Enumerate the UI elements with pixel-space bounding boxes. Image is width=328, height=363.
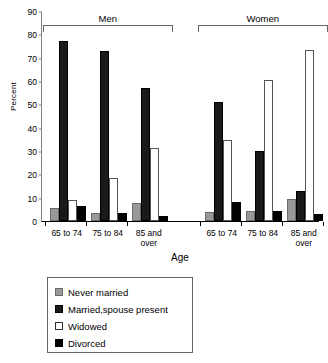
x-axis-tick-label-line1: 85 and	[282, 228, 326, 238]
y-axis-tick-mark	[39, 105, 42, 106]
bar	[314, 214, 323, 221]
bar	[296, 191, 305, 221]
x-axis-tick-label: 85 andover	[127, 228, 171, 248]
bar	[305, 50, 314, 221]
bar	[264, 80, 273, 221]
y-axis-tick-label: 10	[0, 194, 42, 204]
group-bracket: Women	[198, 25, 328, 32]
x-axis-tick-label-line1: 75 to 84	[241, 228, 285, 238]
bar	[205, 212, 214, 221]
bars-layer	[42, 12, 319, 221]
bar	[287, 199, 296, 221]
bar	[273, 211, 282, 221]
x-axis-tick-mark	[241, 222, 242, 226]
x-axis-tick-mark	[200, 222, 201, 226]
bar-chart-figure: Percent 0102030405060708090 Age Never ma…	[0, 0, 328, 363]
bar	[68, 200, 77, 221]
x-axis-tick-label-line2: over	[127, 238, 171, 248]
legend-item: Divorced	[55, 335, 192, 351]
group-bracket-label: Men	[44, 13, 172, 24]
y-axis-tick-label: 70	[0, 54, 42, 64]
bar	[223, 140, 232, 221]
y-axis-tick-label: 40	[0, 124, 42, 134]
y-axis-tick-mark	[39, 128, 42, 129]
group-bracket: Men	[43, 25, 173, 32]
bar	[91, 213, 100, 221]
bar	[246, 211, 255, 221]
legend-swatch-icon	[55, 288, 63, 296]
legend-item-label: Never married	[68, 287, 128, 298]
bar	[141, 88, 150, 221]
x-axis-tick-mark	[86, 222, 87, 226]
bar	[50, 208, 59, 221]
bar	[109, 178, 118, 221]
bar	[232, 202, 241, 221]
bar	[150, 148, 159, 221]
legend-swatch-icon	[55, 339, 63, 347]
y-axis-tick-label: 60	[0, 77, 42, 87]
bar	[77, 206, 86, 221]
y-axis-tick-mark	[39, 58, 42, 59]
bar	[214, 102, 223, 221]
y-axis-tick-mark	[39, 82, 42, 83]
x-axis-tick-label: 65 to 74	[45, 228, 89, 238]
y-axis-tick-mark	[39, 12, 42, 13]
legend-item-label: Divorced	[68, 338, 106, 349]
x-axis-label: Age	[41, 252, 319, 263]
y-axis-tick-mark	[39, 198, 42, 199]
y-axis-tick-label: 50	[0, 100, 42, 110]
x-axis-tick-label-line2: over	[282, 238, 326, 248]
legend-item: Widowed	[55, 318, 192, 334]
y-axis-tick-label: 30	[0, 147, 42, 157]
y-axis-tick-mark	[39, 152, 42, 153]
y-axis-tick-label: 20	[0, 170, 42, 180]
x-axis-tick-mark	[282, 222, 283, 226]
y-axis-tick-label: 90	[0, 7, 42, 17]
x-axis-tick-label: 75 to 84	[86, 228, 130, 238]
y-axis-tick-label: 80	[0, 30, 42, 40]
y-axis-tick-label: 0	[0, 217, 42, 227]
legend-item-label: Widowed	[68, 321, 107, 332]
bar	[159, 216, 168, 221]
group-bracket-label: Women	[199, 13, 327, 24]
legend: Never marriedMarried,spouse presentWidow…	[47, 277, 193, 353]
bar	[118, 213, 127, 221]
y-axis-tick-mark	[39, 35, 42, 36]
plot-area: 0102030405060708090	[41, 12, 319, 222]
bar	[132, 203, 141, 221]
x-axis-tick-label-line1: 85 and	[127, 228, 171, 238]
x-axis-tick-mark	[127, 222, 128, 226]
legend-item: Married,spouse present	[55, 301, 192, 317]
y-axis-tick-mark	[39, 175, 42, 176]
legend-swatch-icon	[55, 322, 63, 330]
x-axis-tick-mark	[45, 222, 46, 226]
bar	[100, 51, 109, 221]
x-axis-tick-label-line1: 65 to 74	[200, 228, 244, 238]
x-axis-tick-label-line1: 65 to 74	[45, 228, 89, 238]
legend-item-label: Married,spouse present	[68, 304, 168, 315]
x-axis-tick-label: 75 to 84	[241, 228, 285, 238]
legend-swatch-icon	[55, 305, 63, 313]
x-axis-tick-label-line1: 75 to 84	[86, 228, 130, 238]
x-axis-tick-mark	[323, 222, 324, 226]
bar	[255, 151, 264, 221]
y-axis-label: Percent	[9, 62, 18, 132]
legend-item: Never married	[55, 284, 192, 300]
x-axis-tick-label: 65 to 74	[200, 228, 244, 238]
bar	[59, 41, 68, 221]
x-axis-tick-label: 85 andover	[282, 228, 326, 248]
